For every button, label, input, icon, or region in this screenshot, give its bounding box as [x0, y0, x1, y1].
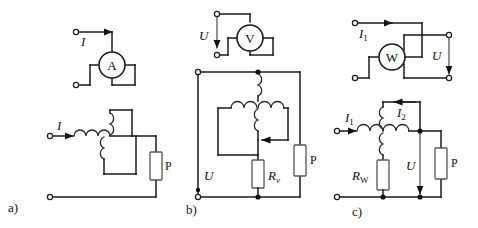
terminal-open	[47, 133, 52, 138]
panel-b-voltage-line-label: U	[204, 168, 215, 183]
panel-b-caption: b)	[186, 202, 197, 217]
panel-a-load-label: P	[165, 159, 172, 173]
panel-c-current-secondary-label: I2	[396, 105, 406, 122]
panel-a: A I	[8, 29, 172, 215]
panel-c: W I1 U	[334, 20, 458, 219]
panel-c-current-top-label: I1	[358, 26, 368, 43]
panel-c-voltage-top-label: U	[432, 48, 443, 63]
terminal-open	[195, 194, 200, 199]
voltmeter-label: V	[245, 31, 255, 46]
panel-c-rw-label: RW	[351, 168, 369, 185]
panel-b-rv-resistor	[252, 160, 264, 188]
panel-c-rw-resistor	[377, 160, 389, 190]
terminal-open	[195, 69, 200, 74]
panel-b-voltage-meter-label: U	[199, 28, 210, 43]
terminal-open	[334, 194, 339, 199]
panel-c-main-group: RW U P I1 I2	[334, 102, 458, 200]
panel-b-transformer-group: Rv P U	[195, 69, 317, 199]
terminal-open	[214, 11, 219, 16]
junction-dot	[380, 194, 385, 199]
panel-a-transformer-group: P I	[47, 110, 172, 200]
terminal-open	[446, 32, 451, 37]
junction-dot	[196, 188, 200, 192]
panel-a-current-top-label: I	[80, 34, 86, 49]
panel-b-load-label: P	[310, 153, 317, 167]
panel-a-ammeter-group: A I	[73, 29, 135, 87]
panel-a-load-resistor	[150, 152, 162, 180]
circuit-figure: A I	[0, 0, 478, 228]
panel-a-current-bottom-label: I	[56, 118, 62, 133]
terminal-open	[334, 128, 339, 133]
panel-c-load-resistor	[435, 148, 447, 179]
panel-b: V U	[186, 11, 317, 217]
panel-b-voltmeter-group: V U	[199, 11, 273, 57]
panel-a-caption: a)	[8, 200, 18, 215]
ammeter-label: A	[107, 58, 117, 73]
terminal-open	[73, 29, 78, 34]
terminal-open	[446, 75, 451, 80]
terminal-open	[214, 52, 219, 57]
panel-c-voltage-line-label: U	[406, 158, 417, 173]
panel-b-rv-label: Rv	[267, 168, 280, 185]
panel-c-caption: c)	[352, 204, 362, 219]
terminal-open	[47, 194, 52, 199]
terminal-open	[352, 75, 357, 80]
panel-b-load-resistor	[294, 145, 306, 176]
junction-dot	[417, 128, 422, 133]
panel-c-wattmeter-group: W I1 U	[352, 20, 451, 80]
wattmeter-label: W	[386, 50, 399, 65]
terminal-open	[73, 82, 78, 87]
terminal-open	[352, 20, 357, 25]
panel-c-current-primary-label: I1	[344, 110, 354, 127]
panel-c-load-label: P	[451, 156, 458, 170]
